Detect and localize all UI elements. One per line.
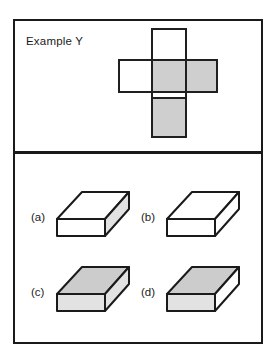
option-label-b: (b)	[141, 211, 155, 223]
page-title: Example Y	[26, 35, 83, 47]
cuboid-c-front-face	[57, 294, 105, 311]
option-box-a[interactable]	[55, 178, 133, 240]
net-column-right-edge	[185, 61, 187, 99]
cuboid-a	[55, 178, 133, 240]
cuboid-c	[55, 253, 133, 315]
cuboid-a-front-face	[57, 219, 105, 236]
net-face-right-flap	[184, 59, 218, 93]
cuboid-b-front-face	[167, 219, 215, 236]
option-box-b[interactable]	[165, 178, 243, 240]
cuboid-b	[165, 178, 243, 240]
unfolded-box-net	[118, 28, 218, 138]
net-column-left-edge	[151, 61, 153, 99]
option-box-c[interactable]	[55, 253, 133, 315]
net-face-top-flap	[151, 28, 187, 62]
net-face-bottom	[151, 97, 187, 138]
option-label-c: (c)	[31, 286, 44, 298]
cuboid-d-front-face	[167, 294, 215, 311]
option-label-a: (a)	[31, 211, 45, 223]
net-face-center	[151, 59, 187, 93]
figure-root: Example Y (a) (b) (c)	[0, 0, 278, 363]
option-label-d: (d)	[141, 286, 155, 298]
cuboid-d	[165, 253, 243, 315]
option-box-d[interactable]	[165, 253, 243, 315]
net-face-left-flap	[118, 59, 154, 93]
